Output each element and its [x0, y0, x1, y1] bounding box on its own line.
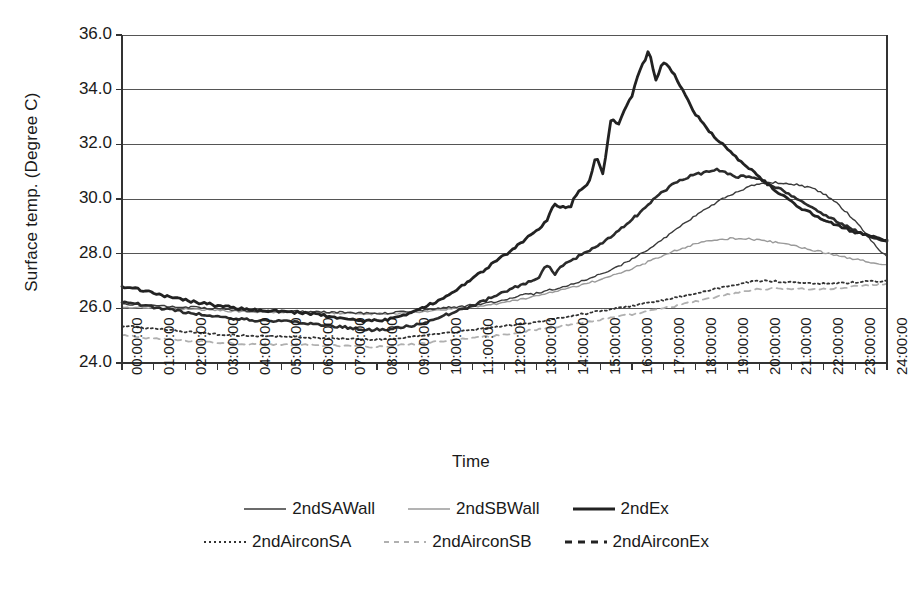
x-tick-label: 01:00:00 — [160, 317, 177, 375]
legend-item-2ndairconsb[interactable]: 2ndAirconSB — [383, 532, 531, 552]
series-line-2ndsbwall — [122, 238, 887, 315]
legend-label: 2ndSAWall — [292, 499, 375, 519]
chart-legend: 2ndSAWall2ndSBWall2ndEx2ndAirconSA2ndAir… — [0, 492, 912, 558]
legend-swatch-solid-thin-dark — [243, 502, 287, 516]
x-tick-label: 14:00:00 — [574, 317, 591, 375]
x-tick-label: 24:00:00 — [893, 317, 910, 375]
x-tick-label: 03:00:00 — [224, 317, 241, 375]
x-tick-label: 11:00:00 — [479, 319, 496, 375]
legend-item-2ndex[interactable]: 2ndEx — [572, 499, 669, 519]
legend-label: 2ndSBWall — [456, 499, 539, 519]
y-tick-label: 36.0 — [54, 24, 112, 44]
x-tick-label: 09:00:00 — [415, 317, 432, 375]
x-tick-label: 16:00:00 — [638, 317, 655, 375]
x-tick-label: 00:00:00 — [128, 317, 145, 375]
x-tick-label: 23:00:00 — [861, 317, 878, 375]
legend-label: 2ndEx — [621, 499, 669, 519]
legend-row: 2ndAirconSA2ndAirconSB2ndAirconEx — [0, 525, 912, 558]
x-tick-label: 07:00:00 — [351, 317, 368, 375]
y-tick-label: 32.0 — [54, 133, 112, 153]
x-tick-label: 20:00:00 — [766, 317, 783, 375]
x-axis-title: Time — [0, 452, 912, 472]
x-tick-label: 15:00:00 — [606, 317, 623, 375]
y-tick-label: 30.0 — [54, 188, 112, 208]
legend-swatch-solid-thick-dark — [572, 502, 616, 516]
legend-item-2ndsbwall[interactable]: 2ndSBWall — [407, 499, 539, 519]
y-tick-label: 34.0 — [54, 79, 112, 99]
legend-label: 2ndAirconEx — [613, 532, 709, 552]
x-tick-label: 12:00:00 — [511, 317, 528, 375]
legend-swatch-dashed-light — [383, 535, 427, 549]
x-tick-label: 06:00:00 — [319, 317, 336, 375]
x-tick-label: 08:00:00 — [383, 317, 400, 375]
x-tick-label: 13:00:00 — [542, 317, 559, 375]
x-axis-title-text: Time — [452, 452, 490, 471]
legend-row: 2ndSAWall2ndSBWall2ndEx — [0, 492, 912, 525]
x-tick-label: 18:00:00 — [702, 317, 719, 375]
x-tick-label: 05:00:00 — [287, 317, 304, 375]
series-line-2ndairconex — [122, 169, 887, 331]
gridlines — [116, 35, 887, 363]
x-tick-label: 19:00:00 — [734, 317, 751, 375]
legend-swatch-dashed-thick-dark — [564, 535, 608, 549]
x-tick-label: 21:00:00 — [797, 317, 814, 375]
series-line-2ndsawall — [122, 182, 887, 314]
legend-swatch-solid-thin-light — [407, 502, 451, 516]
x-tick-label: 22:00:00 — [829, 317, 846, 375]
x-tick-label: 04:00:00 — [256, 317, 273, 375]
temperature-line-chart: Surface temp. (Degree C) 36.034.032.030.… — [0, 0, 912, 589]
y-tick-label: 24.0 — [54, 352, 112, 372]
x-tick-label: 17:00:00 — [670, 317, 687, 375]
legend-item-2ndsawall[interactable]: 2ndSAWall — [243, 499, 375, 519]
y-tick-label: 26.0 — [54, 297, 112, 317]
legend-swatch-dotted-dark — [203, 535, 247, 549]
legend-item-2ndairconsa[interactable]: 2ndAirconSA — [203, 532, 351, 552]
x-tick-label: 02:00:00 — [192, 317, 209, 375]
legend-item-2ndairconex[interactable]: 2ndAirconEx — [564, 532, 709, 552]
legend-label: 2ndAirconSA — [252, 532, 351, 552]
x-tick-label: 10:00:00 — [447, 317, 464, 375]
y-tick-label: 28.0 — [54, 243, 112, 263]
series-lines — [122, 52, 887, 348]
legend-label: 2ndAirconSB — [432, 532, 531, 552]
